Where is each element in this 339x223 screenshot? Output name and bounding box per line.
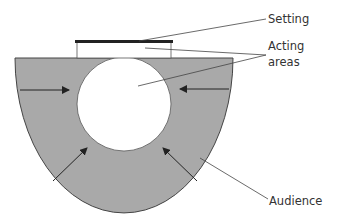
label-audience: Audience: [269, 194, 322, 208]
leader-setting: [139, 19, 266, 41]
thrust-stage-diagram: Setting Acting areas Audience: [0, 0, 339, 223]
label-areas: areas: [268, 55, 300, 69]
label-setting: Setting: [268, 12, 309, 26]
leader-audience: [200, 158, 268, 199]
acting-area-rear: [77, 41, 171, 58]
acting-area-circle: [77, 57, 171, 151]
diagram-graphic: [0, 0, 339, 223]
label-acting: Acting: [268, 39, 304, 53]
